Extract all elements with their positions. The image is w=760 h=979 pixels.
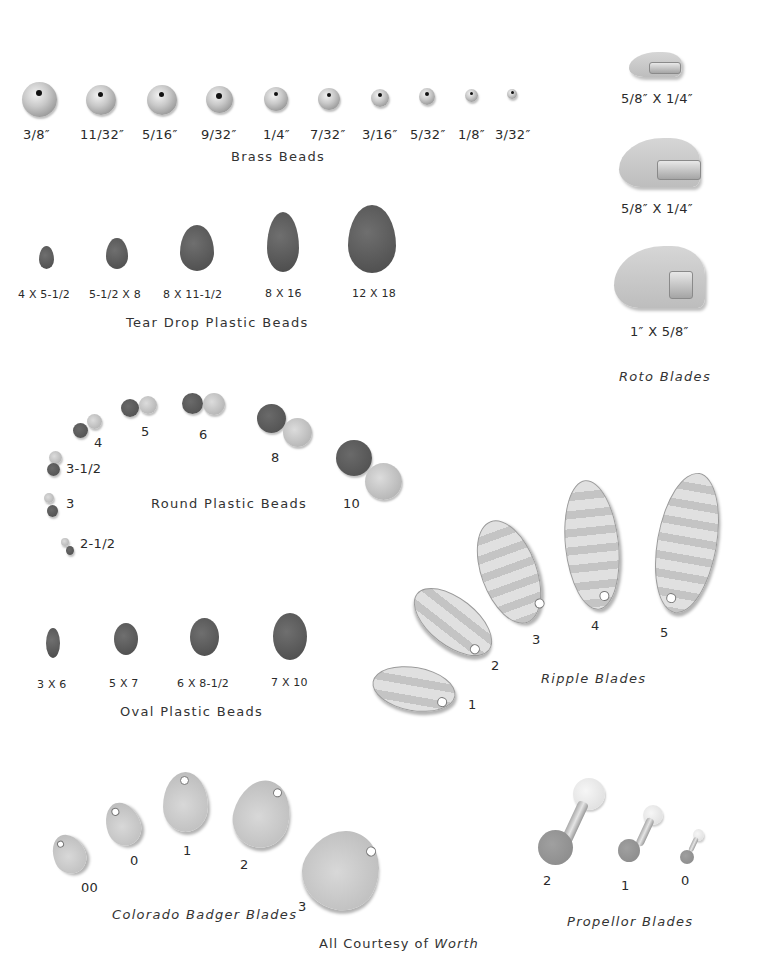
- badger-size-label: 3: [298, 899, 307, 914]
- round-bead-dark-8: [257, 404, 286, 433]
- round-bead-light-4: [87, 414, 102, 429]
- round-bead-dark-3: [47, 505, 58, 517]
- propellor-blade-2-dark: [538, 830, 573, 865]
- brass-bead-3-32: [507, 89, 517, 99]
- propellor-blades-title: Propellor Blades: [567, 914, 693, 929]
- round-bead-light-5: [139, 396, 157, 414]
- round-bead-light-10: [365, 463, 402, 500]
- brass-size-label: 5/16″: [142, 127, 178, 142]
- credit-line: All Courtesy of Worth: [319, 936, 479, 951]
- badger-blade-2: [226, 774, 298, 854]
- badger-blade-1: [163, 772, 208, 832]
- brass-size-label: 3/16″: [362, 127, 398, 142]
- ripple-size-label: 3: [532, 632, 541, 647]
- credit-prefix: All Courtesy of: [319, 936, 434, 951]
- round-size-label: 3: [66, 496, 75, 511]
- ripple-blades-title: Ripple Blades: [541, 671, 646, 686]
- round-size-label: 4: [94, 435, 103, 450]
- credit-brand: Worth: [434, 936, 479, 951]
- brass-size-label: 3/8″: [23, 127, 50, 142]
- tear-drop-bead-8x16: [267, 212, 299, 272]
- brass-size-label: 1/8″: [458, 127, 485, 142]
- tear-drop-bead-8x11-1-2: [180, 225, 214, 271]
- round-bead-dark-10: [336, 440, 372, 476]
- ripple-size-label: 2: [491, 658, 500, 673]
- round-size-label: 2-1/2: [80, 536, 115, 551]
- round-bead-dark-5: [121, 399, 139, 417]
- roto-size-label: 5/8″ X 1/4″: [621, 91, 693, 106]
- tear-drop-bead-12x18: [348, 205, 396, 273]
- round-size-label: 10: [343, 496, 360, 511]
- oval-size-label: 7 X 10: [271, 676, 308, 689]
- badger-size-label: 2: [240, 857, 249, 872]
- brass-size-label: 9/32″: [201, 127, 237, 142]
- brass-bead-1-8: [465, 89, 478, 102]
- brass-bead-1-4: [264, 87, 288, 111]
- tear-drop-size-label: 4 X 5-1/2: [18, 288, 70, 301]
- round-bead-light-8: [283, 418, 312, 447]
- round-bead-light-3: [44, 493, 54, 503]
- brass-bead-3-8: [22, 82, 57, 117]
- roto-blades-title: Roto Blades: [619, 369, 711, 384]
- brass-size-label: 7/32″: [310, 127, 346, 142]
- brass-size-label: 5/32″: [410, 127, 446, 142]
- brass-bead-7-32: [318, 88, 340, 110]
- badger-size-label: 1: [183, 843, 192, 858]
- oval-bead-6x8-1-2: [190, 618, 219, 656]
- tear-drop-beads-title: Tear Drop Plastic Beads: [126, 315, 309, 330]
- propellor-blade-1-shaft: [635, 817, 655, 848]
- brass-beads-title: Brass Beads: [231, 149, 325, 164]
- ripple-blade-1: [369, 660, 459, 718]
- tear-drop-bead-4x5-1-2: [39, 246, 54, 269]
- round-size-label: 3-1/2: [66, 461, 101, 476]
- round-bead-light-3-1-2: [49, 451, 62, 464]
- badger-blade-0: [100, 798, 147, 851]
- round-bead-light-6: [203, 393, 225, 415]
- tear-drop-bead-5-1-2x8: [106, 238, 128, 269]
- roto-blade-large: [614, 246, 705, 308]
- round-size-label: 5: [141, 424, 150, 439]
- round-bead-dark-4: [73, 423, 88, 438]
- badger-size-label: 00: [81, 880, 98, 895]
- round-bead-dark-2-1-2: [66, 546, 74, 555]
- propellor-blade-0-dark: [680, 850, 694, 864]
- ripple-blade-5: [645, 468, 729, 618]
- propellor-size-label: 1: [621, 878, 630, 893]
- oval-bead-3x6: [46, 628, 60, 658]
- roto-blade-medium: [619, 138, 700, 187]
- oval-size-label: 6 X 8-1/2: [177, 677, 229, 690]
- brass-size-label: 3/32″: [495, 127, 531, 142]
- brass-bead-5-16: [147, 85, 177, 115]
- propellor-size-label: 0: [681, 873, 690, 888]
- brass-bead-3-16: [371, 89, 389, 107]
- round-size-label: 8: [271, 450, 280, 465]
- colorado-badger-blades-title: Colorado Badger Blades: [112, 907, 297, 922]
- tear-drop-size-label: 8 X 16: [265, 287, 302, 300]
- oval-beads-title: Oval Plastic Beads: [120, 704, 263, 719]
- ripple-size-label: 1: [468, 697, 477, 712]
- round-bead-dark-6: [182, 393, 203, 414]
- oval-bead-7x10: [273, 613, 307, 660]
- oval-size-label: 3 X 6: [37, 678, 67, 691]
- tear-drop-size-label: 5-1/2 X 8: [89, 288, 141, 301]
- brass-bead-9-32: [206, 86, 233, 113]
- ripple-size-label: 4: [591, 618, 600, 633]
- brass-size-label: 1/4″: [263, 127, 290, 142]
- round-bead-dark-3-1-2: [47, 463, 60, 476]
- roto-blade-small: [629, 52, 682, 77]
- ripple-size-label: 5: [660, 625, 669, 640]
- oval-size-label: 5 X 7: [109, 677, 139, 690]
- ripple-blade-4: [558, 478, 625, 613]
- round-size-label: 6: [199, 427, 208, 442]
- tear-drop-size-label: 12 X 18: [352, 287, 396, 300]
- round-bead-light-2-1-2: [61, 538, 69, 546]
- round-beads-title: Round Plastic Beads: [151, 496, 307, 511]
- propellor-blade-1-dark: [618, 839, 640, 862]
- roto-size-label: 5/8″ X 1/4″: [621, 201, 693, 216]
- tear-drop-size-label: 8 X 11-1/2: [163, 288, 222, 301]
- brass-size-label: 11/32″: [80, 127, 124, 142]
- badger-blade-00: [46, 829, 92, 879]
- roto-size-label: 1″ X 5/8″: [630, 324, 689, 339]
- brass-bead-11-32: [86, 85, 116, 115]
- oval-bead-5x7: [114, 623, 138, 655]
